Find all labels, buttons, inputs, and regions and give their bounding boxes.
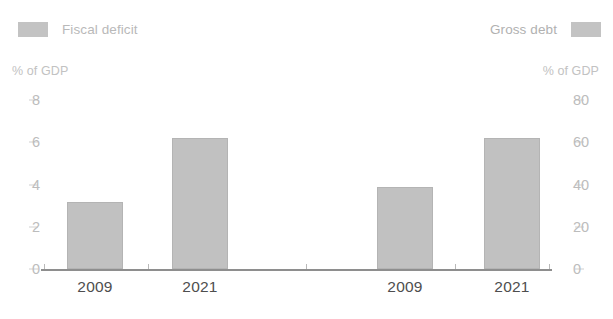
- right-axis-tick-label-80: 80: [573, 93, 589, 108]
- plot-area: 86420806040200 2009202120092021: [0, 0, 613, 319]
- x-axis-label-0-2009: 2009: [55, 278, 135, 296]
- bar-fiscal-deficit-2021[interactable]: [172, 138, 228, 269]
- bar-gross-debt-2009[interactable]: [377, 187, 433, 269]
- left-axis-tick-label-4: 4: [32, 178, 40, 193]
- left-axis-tick-label-0: 0: [32, 262, 40, 277]
- x-axis-label-1-2021: 2021: [160, 278, 240, 296]
- right-axis-tick-label-0: 0: [573, 262, 581, 277]
- left-axis-tick-label-8: 8: [32, 93, 40, 108]
- right-axis-tick-label-40: 40: [573, 178, 589, 193]
- bar-gross-debt-2021[interactable]: [484, 138, 540, 269]
- right-axis-tick-label-20: 20: [573, 220, 589, 235]
- x-axis-label-2-2009: 2009: [365, 278, 445, 296]
- left-axis-tick-label-6: 6: [32, 135, 40, 150]
- x-axis-baseline: [41, 269, 552, 271]
- chart-figure: Fiscal deficit Gross debt % of GDP % of …: [0, 0, 613, 319]
- right-axis-tick-label-60: 60: [573, 135, 589, 150]
- x-axis-label-3-2021: 2021: [472, 278, 552, 296]
- left-axis-tick-label-2: 2: [32, 220, 40, 235]
- bar-fiscal-deficit-2009[interactable]: [67, 202, 123, 269]
